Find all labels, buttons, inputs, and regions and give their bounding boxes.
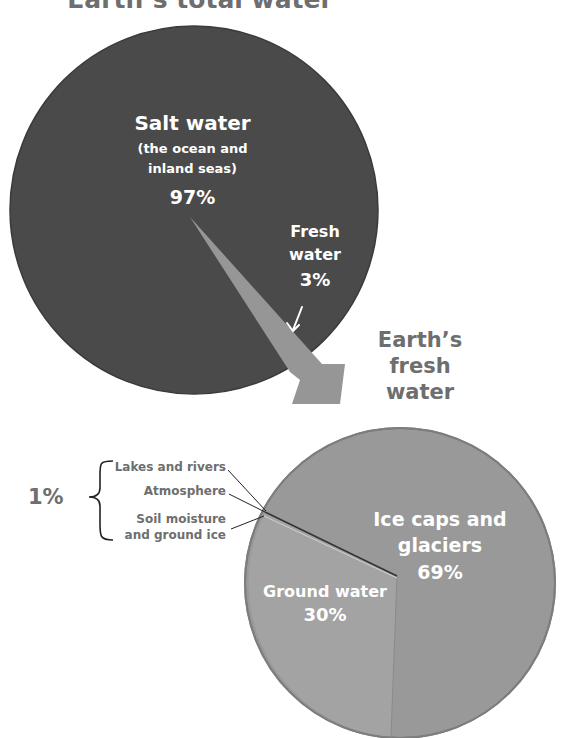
salt-water-label: Salt water <box>100 112 285 135</box>
ice-caps-label-2: glaciers <box>360 535 520 557</box>
total-water-title: Earth’s total water <box>60 0 340 15</box>
fresh-water-label-1: Fresh <box>275 223 355 241</box>
ice-caps-percent: 69% <box>360 562 520 584</box>
soil-moisture-label-1: Soil moisture <box>100 513 226 527</box>
ice-caps-label-1: Ice caps and <box>360 509 520 531</box>
soil-moisture-label-2: and ground ice <box>100 529 226 543</box>
fresh-water-title-1: Earth’s <box>355 328 485 352</box>
salt-water-sub1: (the ocean and <box>100 142 285 157</box>
ground-water-percent: 30% <box>250 605 400 626</box>
lakes-rivers-label: Lakes and rivers <box>100 461 226 475</box>
fresh-water-title-2: fresh <box>355 354 485 378</box>
fresh-water-title-3: water <box>355 380 485 404</box>
fresh-water-label-2: water <box>275 246 355 264</box>
ground-water-label: Ground water <box>250 583 400 601</box>
small-slices-percent: 1% <box>28 485 88 509</box>
salt-water-percent: 97% <box>100 187 285 209</box>
atmosphere-label: Atmosphere <box>100 485 226 499</box>
salt-water-sub2: inland seas) <box>100 162 285 177</box>
fresh-water-percent: 3% <box>275 270 355 291</box>
total-water-pie <box>10 26 378 394</box>
